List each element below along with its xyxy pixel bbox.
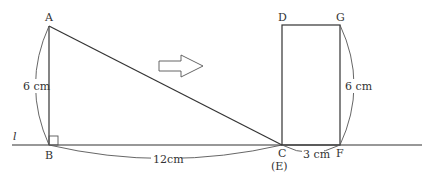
triangle-height-label: 6 cm [23, 80, 51, 93]
vertex-d-label: D [278, 11, 287, 24]
vertex-b-label: B [45, 149, 53, 162]
vertex-f-label: F [336, 147, 344, 160]
rectangle-defg [282, 25, 340, 145]
triangle-base-label: 12cm [153, 153, 184, 166]
rectangle-height-label: 6 cm [345, 80, 373, 93]
triangle-abc [49, 26, 282, 145]
line-l-label: l [13, 130, 17, 143]
vertex-e-label: (E) [271, 160, 288, 173]
vertex-c-label: C [278, 147, 286, 160]
arrow-right-icon [159, 55, 203, 77]
right-angle-mark [49, 136, 58, 145]
vertex-a-label: A [44, 11, 54, 24]
geometry-diagram: l A B C 6 cm 12cm D G F (E) 6 cm 3 cm [0, 0, 431, 176]
vertex-g-label: G [336, 11, 345, 24]
rectangle-width-label: 3 cm [303, 148, 331, 161]
